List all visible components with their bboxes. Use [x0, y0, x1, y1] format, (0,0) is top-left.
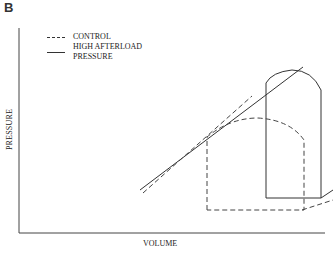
control-tail [302, 200, 333, 210]
series-control [143, 96, 333, 210]
chart-plot-area [0, 0, 333, 255]
control-loop [207, 118, 304, 210]
high-afterload-espvr-line [140, 67, 303, 190]
high-afterload-tail [321, 190, 333, 198]
control-espvr-line [143, 96, 252, 193]
